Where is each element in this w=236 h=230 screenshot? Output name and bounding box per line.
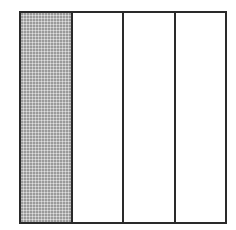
fraction-part-3 — [124, 13, 176, 222]
fraction-part-4 — [176, 13, 226, 222]
fraction-part-1 — [21, 13, 73, 222]
fraction-square — [19, 11, 227, 224]
fraction-part-2 — [73, 13, 125, 222]
fraction-label: 1/4 — [0, 0, 1, 1]
diagram-canvas: 1/4 — [0, 0, 236, 230]
